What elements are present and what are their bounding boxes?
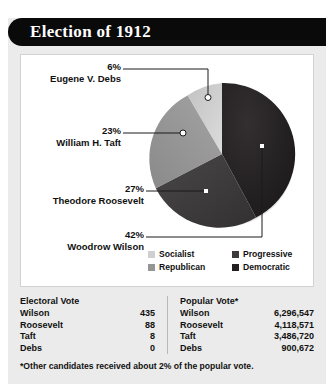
- electoral-row-value: 435: [140, 308, 155, 320]
- callout-roosevelt: 27% Theodore Roosevelt: [22, 183, 144, 206]
- callout-wilson-pct: 42%: [22, 229, 144, 241]
- popular-vote-table: Popular Vote* Wilson 6,296,547 Roosevelt…: [167, 296, 314, 354]
- table-row: Roosevelt 88: [20, 320, 155, 332]
- electoral-row-value: 88: [145, 320, 155, 332]
- table-row: Taft 8: [20, 331, 155, 343]
- legend-item-progressive: Progressive: [232, 249, 308, 259]
- vote-tables: Electoral Vote Wilson 435 Roosevelt 88 T…: [20, 296, 314, 354]
- electoral-vote-heading: Electoral Vote: [20, 296, 155, 306]
- election-1912-infographic: Election of 1912: [0, 0, 334, 392]
- legend-swatch-socialist: [148, 251, 155, 258]
- footnote: *Other candidates received about 2% of t…: [20, 361, 254, 371]
- legend-label-democratic: Democratic: [243, 262, 290, 272]
- popular-row-value: 6,296,547: [274, 308, 314, 320]
- table-row: Wilson 6,296,547: [180, 308, 314, 320]
- title-bar: Election of 1912: [8, 18, 326, 46]
- legend-label-progressive: Progressive: [243, 249, 292, 259]
- electoral-row-value: 8: [150, 331, 155, 343]
- electoral-row-name: Debs: [20, 343, 42, 355]
- table-row: Debs 0: [20, 343, 155, 355]
- legend-label-socialist: Socialist: [159, 249, 194, 259]
- popular-row-name: Wilson: [180, 308, 209, 320]
- legend-swatch-republican: [148, 264, 155, 271]
- callout-debs-pct: 6%: [22, 61, 121, 73]
- electoral-vote-table: Electoral Vote Wilson 435 Roosevelt 88 T…: [20, 296, 167, 354]
- legend-label-republican: Republican: [159, 262, 205, 272]
- table-row: Roosevelt 4,118,571: [180, 320, 314, 332]
- popular-row-name: Debs: [180, 343, 202, 355]
- callout-roosevelt-name: Theodore Roosevelt: [22, 195, 144, 207]
- table-row: Taft 3,486,720: [180, 331, 314, 343]
- popular-row-value: 4,118,571: [274, 320, 314, 332]
- electoral-row-value: 0: [150, 343, 155, 355]
- popular-row-value: 3,486,720: [274, 331, 314, 343]
- electoral-row-name: Roosevelt: [20, 320, 63, 332]
- popular-row-value: 900,672: [281, 343, 314, 355]
- legend-row: Socialist Progressive: [148, 249, 308, 259]
- popular-row-name: Roosevelt: [180, 320, 223, 332]
- electoral-row-name: Taft: [20, 331, 36, 343]
- table-row: Debs 900,672: [180, 343, 314, 355]
- table-row: Wilson 435: [20, 308, 155, 320]
- legend-swatch-progressive: [232, 251, 239, 258]
- legend-item-socialist: Socialist: [148, 249, 224, 259]
- popular-row-name: Taft: [180, 331, 196, 343]
- callout-wilson: 42% Woodrow Wilson: [22, 229, 144, 252]
- electoral-row-name: Wilson: [20, 308, 49, 320]
- legend-item-democratic: Democratic: [232, 262, 308, 272]
- callout-taft-name: William H. Taft: [22, 137, 121, 149]
- callout-debs: 6% Eugene V. Debs: [22, 61, 121, 84]
- popular-vote-heading: Popular Vote*: [180, 296, 314, 306]
- callout-taft-pct: 23%: [22, 125, 121, 137]
- legend-row: Republican Democratic: [148, 262, 308, 272]
- legend-swatch-democratic: [232, 264, 239, 271]
- legend-item-republican: Republican: [148, 262, 224, 272]
- callout-wilson-name: Woodrow Wilson: [22, 241, 144, 253]
- page-title: Election of 1912: [30, 22, 151, 42]
- legend: Socialist Progressive Republican Democra…: [148, 249, 308, 275]
- callout-roosevelt-pct: 27%: [22, 183, 144, 195]
- callout-debs-name: Eugene V. Debs: [22, 73, 121, 85]
- callout-taft: 23% William H. Taft: [22, 125, 121, 148]
